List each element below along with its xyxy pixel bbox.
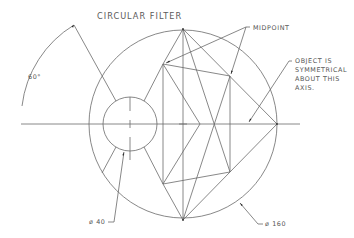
circular-filter-drawing: CIRCULAR FILTER 60° MIDPOINT OBJECT IS S… (0, 0, 354, 238)
edge-top-to-lower-mid (183, 29, 230, 172)
large-diameter-label: ø 160 (265, 220, 286, 228)
midpoint-arrowhead-right (231, 70, 233, 74)
note-line-4: AXIS. (295, 84, 315, 92)
large-diameter-leader (240, 203, 258, 224)
small-diameter-arrowhead (122, 152, 124, 156)
angle-leg-upper (74, 25, 116, 101)
midpoint-arrowhead-left (166, 61, 170, 63)
small-diameter-leader (114, 152, 124, 222)
vertex-bottom (182, 219, 184, 221)
vertex-right (276, 123, 278, 125)
note-line-3: ABOUT THIS (295, 75, 340, 83)
edge-bottom-to-upper-mid (183, 76, 230, 220)
note-line-2: SYMMETRICAL (295, 66, 347, 74)
note-leader (249, 61, 289, 122)
note-line-1: OBJECT IS (295, 57, 332, 65)
midpoint-label: MIDPOINT (253, 24, 290, 32)
midpoint-leader-right (231, 27, 246, 74)
tangent-line-upper (144, 64, 163, 101)
vertex-top (182, 28, 184, 30)
small-diameter-label: ø 40 (89, 218, 105, 226)
tangent-line-lower-left (102, 147, 116, 173)
angle-label: 60° (28, 73, 41, 81)
tangent-line-lower (144, 147, 163, 184)
edge-axis-to-lower-left (163, 124, 200, 184)
drawing-title: CIRCULAR FILTER (97, 11, 182, 21)
edge-upper-left-to-axis (163, 64, 200, 124)
edge-bottom-to-lower-left (163, 184, 183, 220)
angle-arc (22, 25, 74, 106)
edge-top-to-upper-left (163, 29, 183, 64)
